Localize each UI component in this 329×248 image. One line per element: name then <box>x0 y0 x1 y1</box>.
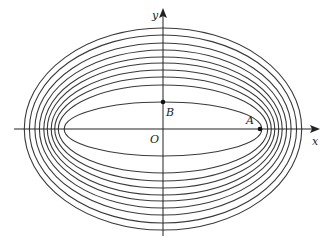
y-axis-label: y <box>151 9 159 22</box>
point-b-dot <box>161 100 166 105</box>
point-a-label: A <box>245 114 254 127</box>
x-axis-label: x <box>312 135 319 148</box>
point-b-label: B <box>165 106 174 119</box>
origin-label: O <box>150 133 159 146</box>
point-a-dot <box>258 127 263 132</box>
ellipse-diagram: x y O A B <box>0 0 329 248</box>
